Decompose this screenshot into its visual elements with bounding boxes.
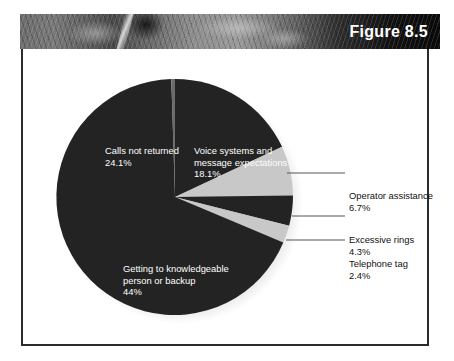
chart-plot-area: Calls not returned 24.1% Voice systems a… [21, 30, 429, 346]
figure-container: Figure 8.5 [0, 0, 454, 361]
callout-label-telephone-tag: Telephone tag 2.4% [349, 258, 453, 281]
slice-label-voice-systems: Voice systems and message expectations 1… [194, 145, 302, 180]
pie-chart-svg [21, 30, 429, 346]
slice-label-knowledgeable-person: Getting to knowledgeable person or backu… [123, 263, 253, 298]
callout-label-excessive-rings: Excessive rings 4.3% [349, 234, 453, 257]
callout-label-operator-assistance: Operator assistance 6.7% [349, 190, 453, 213]
